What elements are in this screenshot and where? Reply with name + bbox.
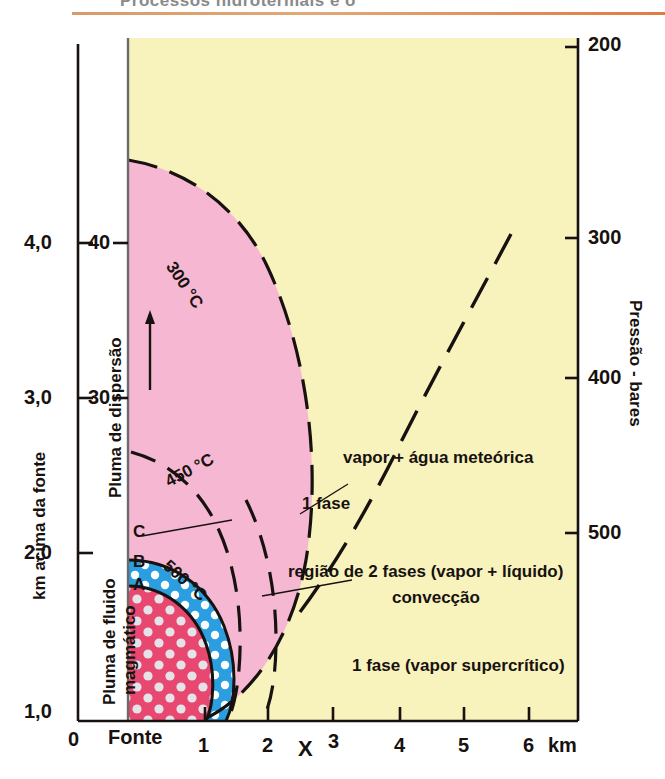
zone-label-magmatic-line2: magmático bbox=[120, 605, 140, 695]
right-tick-300: 300 bbox=[588, 226, 621, 249]
marker-a: A bbox=[133, 575, 145, 595]
bottom-label-fonte: Fonte bbox=[108, 726, 162, 749]
annotation-one-phase: 1 fase bbox=[302, 494, 350, 514]
left-tick-4: 4,0 bbox=[24, 231, 52, 254]
bottom-axis-title: X bbox=[298, 736, 313, 762]
right-tick-500: 500 bbox=[588, 521, 621, 544]
inner-tick-40: 40 bbox=[88, 231, 110, 254]
left-axis-title: km acima da fonte bbox=[30, 452, 50, 600]
marker-b: B bbox=[133, 552, 145, 572]
bottom-tick-5: 5 bbox=[458, 734, 469, 757]
annotation-convection: convecção bbox=[392, 588, 480, 608]
annotation-supercritical: 1 fase (vapor supercrítico) bbox=[352, 656, 565, 676]
figure-page: Processos hidrotermais e o bbox=[0, 0, 665, 779]
left-tick-3: 3,0 bbox=[24, 386, 52, 409]
annotation-meteoric-water: vapor + água meteórica bbox=[343, 448, 533, 468]
bottom-tick-3: 3 bbox=[328, 730, 339, 753]
zone-label-dispersion: Pluma de dispersão bbox=[106, 337, 126, 498]
plot-area bbox=[128, 38, 578, 722]
annotation-two-phase: região de 2 fases (vapor + líquido) bbox=[288, 562, 563, 582]
marker-c: C bbox=[133, 522, 145, 542]
bottom-tick-1: 1 bbox=[198, 734, 209, 757]
right-tick-400: 400 bbox=[588, 366, 621, 389]
bottom-axis-unit: km bbox=[548, 734, 577, 757]
zone-label-magmatic-line1: Pluma de fluido bbox=[100, 578, 120, 705]
right-tick-200: 200 bbox=[588, 33, 621, 56]
left-tick-1: 1,0 bbox=[24, 700, 52, 723]
bottom-tick-0: 0 bbox=[68, 728, 79, 751]
bottom-tick-2: 2 bbox=[262, 734, 273, 757]
right-axis-title: Pressão - bares bbox=[625, 300, 645, 427]
bottom-tick-4: 4 bbox=[394, 734, 405, 757]
bottom-tick-6: 6 bbox=[523, 734, 534, 757]
